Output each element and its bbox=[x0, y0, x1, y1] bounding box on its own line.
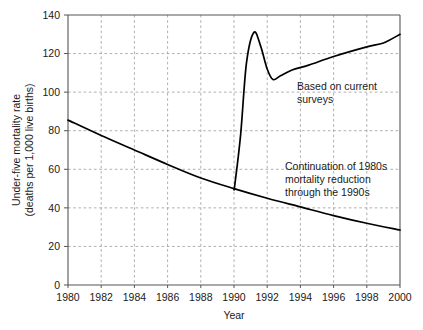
y-tick-label: 100 bbox=[42, 86, 60, 98]
x-tick-label: 1990 bbox=[222, 291, 246, 303]
y-tick-label: 80 bbox=[48, 124, 60, 136]
y-axis-title: Under-five mortality rate (deaths per 1,… bbox=[10, 83, 35, 216]
annotation-continuation-line1: Continuation of 1980s bbox=[285, 160, 387, 172]
x-axis-tick-labels: 1980 1982 1984 1986 1988 1990 1992 1994 … bbox=[56, 291, 412, 303]
x-tick-label: 1992 bbox=[256, 291, 280, 303]
y-axis-tickmarks bbox=[64, 15, 68, 285]
gridlines-vertical bbox=[101, 15, 367, 285]
x-tick-label: 1982 bbox=[90, 291, 114, 303]
x-tick-label: 1988 bbox=[189, 291, 213, 303]
y-tick-label: 60 bbox=[48, 163, 60, 175]
y-axis-title-line1: Under-five mortality rate bbox=[10, 94, 22, 206]
x-tick-label: 1986 bbox=[156, 291, 180, 303]
y-tick-label: 0 bbox=[54, 279, 60, 291]
x-tick-label: 1998 bbox=[355, 291, 379, 303]
annotation-current-surveys-line1: Based on current bbox=[297, 80, 377, 92]
x-axis-title: Year bbox=[223, 309, 245, 321]
x-tick-label: 1980 bbox=[56, 291, 80, 303]
annotation-continuation-line3: through the 1990s bbox=[285, 186, 370, 198]
x-tick-label: 1994 bbox=[289, 291, 313, 303]
mortality-rate-line-chart: 0 20 40 60 80 100 120 140 1980 1982 1984… bbox=[0, 0, 423, 330]
y-axis-tick-labels: 0 20 40 60 80 100 120 140 bbox=[42, 9, 60, 291]
y-tick-label: 20 bbox=[48, 240, 60, 252]
y-tick-label: 120 bbox=[42, 47, 60, 59]
x-tick-label: 1984 bbox=[123, 291, 147, 303]
annotation-current-surveys-line2: surveys bbox=[297, 93, 333, 105]
y-tick-label: 140 bbox=[42, 9, 60, 21]
annotation-continuation-line2: mortality reduction bbox=[285, 173, 371, 185]
chart-figure: 0 20 40 60 80 100 120 140 1980 1982 1984… bbox=[0, 0, 423, 330]
x-tick-label: 2000 bbox=[388, 291, 412, 303]
y-tick-label: 40 bbox=[48, 202, 60, 214]
y-axis-title-line2: (deaths per 1,000 live births) bbox=[23, 83, 35, 216]
annotation-continuation-1980s: Continuation of 1980s mortality reductio… bbox=[285, 160, 387, 198]
x-tick-label: 1996 bbox=[322, 291, 346, 303]
